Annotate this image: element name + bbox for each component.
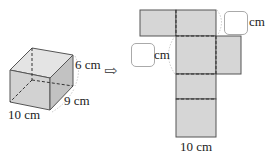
prism-width-label: 10 cm	[8, 108, 40, 121]
net-left-unit-label: cm	[154, 48, 170, 61]
prism-height-label: 6 cm	[75, 58, 101, 71]
arrow-icon: ⇨	[104, 63, 117, 79]
answer-blank-left[interactable]	[131, 43, 155, 67]
answer-blank-top[interactable]	[224, 11, 248, 35]
prism-depth-label: 9 cm	[64, 94, 90, 107]
net-bottom-label: 10 cm	[180, 140, 212, 153]
net-top-unit-label: cm	[249, 15, 265, 28]
